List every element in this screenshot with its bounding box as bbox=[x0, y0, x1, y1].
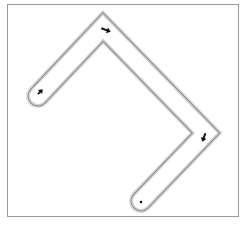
corridor-diagram bbox=[0, 0, 244, 225]
dot-icon bbox=[140, 201, 143, 204]
